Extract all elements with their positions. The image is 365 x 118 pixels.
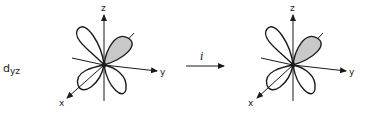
lobe-upper-left	[76, 27, 104, 65]
lobe-lower-right	[293, 65, 315, 94]
orbital-after	[257, 15, 346, 101]
x-axis-label: x	[59, 98, 65, 108]
y-axis-label: y	[349, 67, 355, 77]
orbital-before	[67, 15, 157, 101]
operation-symbol: i	[200, 50, 204, 63]
orbital-diagram: dyz z y x i z y x	[0, 0, 365, 118]
lobe-upper-left	[265, 27, 293, 65]
inversion-operation: i	[186, 50, 224, 66]
nucleus	[291, 62, 295, 68]
y-axis-label: y	[160, 67, 166, 77]
x-axis-label: x	[248, 98, 254, 108]
z-axis-label: z	[290, 3, 295, 13]
lobe-upper-right-shaded	[293, 36, 321, 65]
nucleus	[102, 62, 106, 68]
lobe-upper-right-shaded	[104, 36, 132, 65]
lobe-lower-right	[104, 65, 126, 94]
orbital-label: dyz	[3, 62, 20, 76]
z-axis-label: z	[101, 3, 106, 13]
